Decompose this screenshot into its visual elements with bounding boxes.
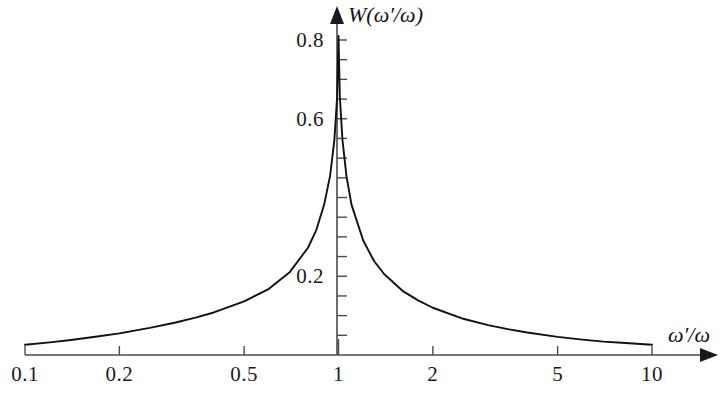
data-curve — [25, 36, 652, 345]
y-axis-arrow-icon — [330, 6, 344, 24]
y-tick-label: 0.6 — [262, 106, 324, 131]
chart-figure: 0.10.20.512510 0.20.60.8 W(ω′/ω) ω′/ω — [0, 0, 728, 397]
y-tick-label: 0.2 — [262, 264, 324, 289]
y-tick-label: 0.8 — [262, 28, 324, 53]
x-tick-label: 1 — [333, 362, 344, 387]
y-axis-title: W(ω′/ω) — [348, 2, 423, 28]
x-tick-label: 2 — [427, 362, 438, 387]
x-axis-arrow-icon — [700, 348, 718, 362]
x-tick-label: 0.1 — [11, 362, 39, 387]
x-axis-title: ω′/ω — [668, 322, 710, 348]
x-tick-label: 0.2 — [105, 362, 133, 387]
plot-canvas — [0, 0, 728, 397]
x-axis-ticks — [25, 339, 652, 355]
x-tick-label: 0.5 — [230, 362, 258, 387]
y-axis-minor-ticks — [337, 40, 347, 335]
x-tick-label: 5 — [552, 362, 563, 387]
x-tick-label: 10 — [641, 362, 663, 387]
